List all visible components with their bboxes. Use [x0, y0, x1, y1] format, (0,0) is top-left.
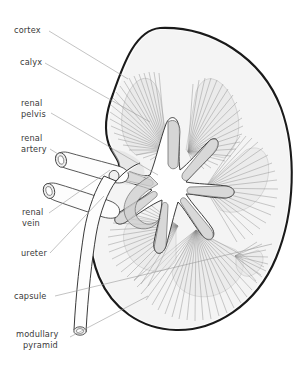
label-renal-artery-1: renal [21, 133, 42, 143]
label-calyx: calyx [20, 57, 42, 67]
label-renal-pelvis-2: pelvis [21, 109, 46, 119]
label-modullary-2: pyramid [23, 340, 58, 350]
label-renal-vein-2: vein [22, 218, 40, 228]
label-renal-vein-1: renal [22, 207, 43, 217]
calyx-upper-left [168, 120, 180, 168]
kidney-diagram: cortex calyx renal pelvis renal artery r… [0, 0, 304, 367]
ureter-lumen [76, 329, 83, 334]
label-ureter: ureter [21, 248, 47, 258]
label-capsule: capsule [14, 291, 47, 301]
label-renal-pelvis-1: renal [21, 98, 42, 108]
label-modullary-1: modullary [16, 329, 59, 339]
label-renal-artery-2: artery [21, 144, 47, 154]
leader-renal-artery [50, 149, 58, 154]
label-cortex: cortex [14, 25, 41, 35]
kidney-illustration: cortex calyx renal pelvis renal artery r… [0, 0, 304, 367]
